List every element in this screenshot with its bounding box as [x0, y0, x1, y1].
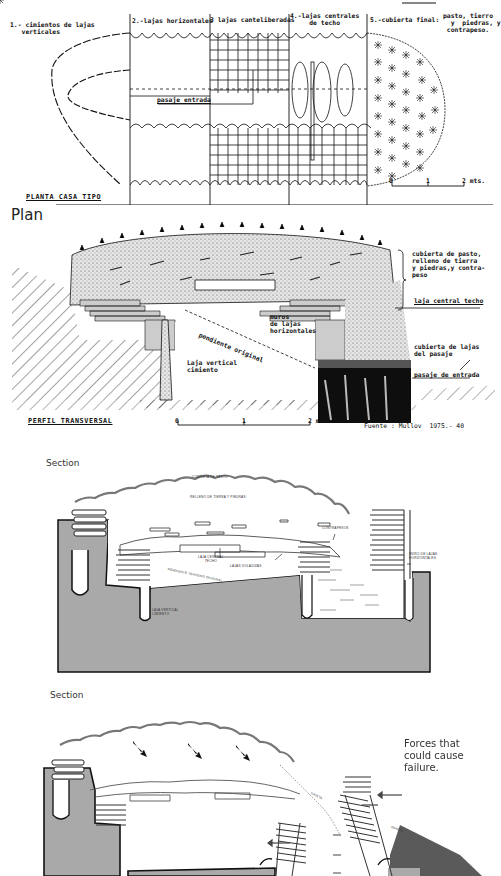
plan-drawing: 1.- cimientos de lajas verticales 2.-laj…	[0, 0, 495, 205]
scale-zero: 0	[389, 178, 393, 185]
forces-annotation: Forces that could cause failure.	[404, 738, 464, 774]
label-final-cover: 5.-cubierta final:	[370, 17, 439, 24]
label-central-slabs: 4.-lajas centrales de techo	[290, 13, 359, 27]
source-credit: Fuente : Mullov 1975.- 40	[364, 423, 464, 430]
label-vertical-slab: Laja vertical cimiento	[187, 360, 237, 374]
scale-one: 1	[426, 178, 430, 185]
label-passage-cover: cubierta de lajas del pasaje	[414, 344, 479, 358]
scale-two: 2 mts.	[462, 178, 485, 185]
label-horizontal-slabs: 2.-lajas horizontales	[132, 18, 213, 25]
label-cantilevered-slabs: 3 lajas canteliberadas	[210, 17, 295, 24]
plan-title: PLANTA CASA TIPO	[26, 194, 101, 201]
s1-label-horizontal-walls: MURO DE LAJAS HORIZONTALES	[409, 552, 437, 560]
label-foundation: 1.- cimientos de lajas verticales	[10, 22, 95, 36]
profile-scale-two: 2 mts.	[308, 418, 331, 425]
profile-drawing: cubierta de pasto, relleno de tierra y p…	[0, 210, 495, 445]
label-passage-entry: pasaje de entrada	[414, 372, 479, 379]
s1-label-grass-cover: CUBIERTA DE PASTO	[192, 475, 228, 479]
s1-label-counterweights: CONTRAPESOS	[322, 526, 349, 530]
profile-svg	[0, 210, 495, 445]
label-cover-detail: pasto, tierro y piedras, y contrapeso.	[443, 13, 501, 34]
s1-label-vertical-slab: LAJA VERTICAL CIMIENTO	[152, 608, 178, 616]
profile-title: PERFIL TRANSVERSAL	[28, 418, 112, 425]
section1-svg	[0, 470, 495, 680]
section2-caption: Section	[50, 690, 83, 700]
section1-caption: Section	[46, 458, 79, 468]
profile-scale-zero: 0	[175, 418, 179, 425]
label-passage: pasaje entrada	[157, 97, 211, 104]
s1-label-cantilever-slabs: LAJAS VOLADIZAS	[230, 564, 262, 568]
section2-svg	[0, 705, 495, 876]
section2-drawing: GRIETA GRIETA Forces that could cause fa…	[0, 705, 495, 876]
label-walls: muros de lajas horizontales	[270, 314, 316, 335]
s1-label-central-slab: LAJA CENTRAL TECHO	[198, 555, 224, 563]
label-cover-fill: cubierta de pasto, relleno de tierra y p…	[412, 251, 485, 279]
profile-scale-one: 1	[242, 418, 246, 425]
label-central-slab: laja central techo	[414, 298, 483, 305]
s1-label-earth-fill: RELLENO DE TIERRA Y PIEDRAS	[190, 495, 246, 499]
section1-drawing: CUBIERTA DE PASTO RELLENO DE TIERRA Y PI…	[0, 470, 495, 680]
